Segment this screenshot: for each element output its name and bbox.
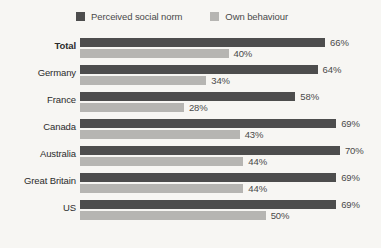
legend-item-own-behaviour: Own behaviour (210, 11, 288, 22)
bar-value-own: 34% (211, 75, 230, 86)
bar-own-behaviour (80, 103, 184, 112)
bar-line-own: 28% (80, 103, 381, 112)
bar-own-behaviour (80, 76, 206, 85)
bar-line-own: 44% (80, 157, 381, 166)
bar-value-own: 44% (248, 156, 267, 167)
category-bar-group: 66% 40% (80, 38, 381, 58)
bar-value-own: 28% (189, 102, 208, 113)
bar-own-behaviour (80, 184, 243, 193)
bar-perceived-social-norm (80, 38, 325, 47)
bar-value-own: 44% (248, 183, 267, 194)
chart-row: Germany 64% 34% (0, 62, 381, 89)
bar-line-perceived: 69% (80, 200, 381, 209)
bar-value-perceived: 64% (323, 64, 342, 75)
chart-plot-area: Total 66% 40% Germany 64% (0, 35, 381, 224)
legend-item-perceived-social-norm: Perceived social norm (76, 11, 182, 22)
bar-perceived-social-norm (80, 146, 340, 155)
bar-line-perceived: 69% (80, 119, 381, 128)
chart-row: Canada 69% 43% (0, 116, 381, 143)
bar-perceived-social-norm (80, 65, 318, 74)
bar-line-own: 40% (80, 49, 381, 58)
legend-swatch-icon-dark (76, 12, 85, 21)
bar-value-perceived: 70% (345, 145, 364, 156)
category-label: Germany (0, 67, 76, 78)
bar-perceived-social-norm (80, 92, 295, 101)
category-bar-group: 69% 50% (80, 200, 381, 220)
chart-row: US 69% 50% (0, 197, 381, 224)
bar-perceived-social-norm (80, 173, 336, 182)
chart-legend: Perceived social norm Own behaviour (0, 11, 381, 22)
category-label: Australia (0, 148, 76, 159)
bar-value-perceived: 58% (300, 91, 319, 102)
legend-swatch-icon-light (210, 12, 219, 21)
category-bar-group: 69% 43% (80, 119, 381, 139)
bar-line-own: 43% (80, 130, 381, 139)
category-label: France (0, 94, 76, 105)
bar-line-perceived: 66% (80, 38, 381, 47)
legend-label-perceived-social-norm: Perceived social norm (91, 11, 182, 22)
bar-line-own: 50% (80, 211, 381, 220)
category-bar-group: 70% 44% (80, 146, 381, 166)
bar-line-perceived: 69% (80, 173, 381, 182)
bar-chart: Perceived social norm Own behaviour Tota… (0, 0, 381, 248)
bar-own-behaviour (80, 49, 229, 58)
category-bar-group: 58% 28% (80, 92, 381, 112)
bar-line-perceived: 64% (80, 65, 381, 74)
bar-own-behaviour (80, 211, 266, 220)
bar-perceived-social-norm (80, 119, 336, 128)
legend-label-own-behaviour: Own behaviour (225, 11, 288, 22)
bar-value-own: 43% (245, 129, 264, 140)
bar-value-own: 40% (234, 48, 253, 59)
bar-own-behaviour (80, 157, 243, 166)
bar-value-perceived: 69% (341, 172, 360, 183)
bar-perceived-social-norm (80, 200, 336, 209)
category-label: Total (0, 40, 76, 51)
chart-row: France 58% 28% (0, 89, 381, 116)
bar-line-own: 34% (80, 76, 381, 85)
chart-row: Total 66% 40% (0, 35, 381, 62)
category-label: Canada (0, 121, 76, 132)
chart-row: Australia 70% 44% (0, 143, 381, 170)
category-bar-group: 64% 34% (80, 65, 381, 85)
bar-line-perceived: 58% (80, 92, 381, 101)
category-label: Great Britain (0, 175, 76, 186)
chart-row: Great Britain 69% 44% (0, 170, 381, 197)
bar-line-own: 44% (80, 184, 381, 193)
bar-value-own: 50% (271, 210, 290, 221)
bar-own-behaviour (80, 130, 240, 139)
bar-value-perceived: 69% (341, 199, 360, 210)
category-label: US (0, 202, 76, 213)
bar-value-perceived: 69% (341, 118, 360, 129)
category-bar-group: 69% 44% (80, 173, 381, 193)
bar-value-perceived: 66% (330, 37, 349, 48)
bar-line-perceived: 70% (80, 146, 381, 155)
